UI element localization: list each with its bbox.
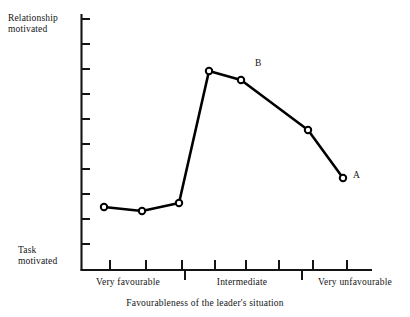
annotation-label-a: A — [353, 170, 360, 180]
data-point — [101, 204, 107, 210]
x-axis-ticks — [110, 260, 347, 270]
y-axis-bottom-label: Task motivated — [18, 245, 78, 267]
y-axis-top-label: Relationship motivated — [8, 13, 78, 35]
chart-figure: Relationship motivated Task motivated Ve… — [0, 0, 410, 317]
x-axis-label-intermediate: Intermediate — [192, 277, 292, 287]
annotation-label-b: B — [255, 58, 262, 68]
data-point — [305, 127, 311, 133]
x-axis-caption: Favourableness of the leader's situation — [0, 298, 410, 308]
data-point-a — [340, 175, 346, 181]
data-point — [206, 68, 212, 74]
data-point — [139, 208, 145, 214]
data-series-line — [104, 71, 343, 211]
chart-plot-area — [0, 0, 410, 317]
x-axis-label-very-unfavourable: Very unfavourable — [300, 277, 410, 287]
data-point-markers — [101, 68, 346, 214]
x-axis-label-very-favourable: Very favourable — [68, 277, 188, 287]
data-point — [176, 200, 182, 206]
data-point-b — [238, 77, 244, 83]
